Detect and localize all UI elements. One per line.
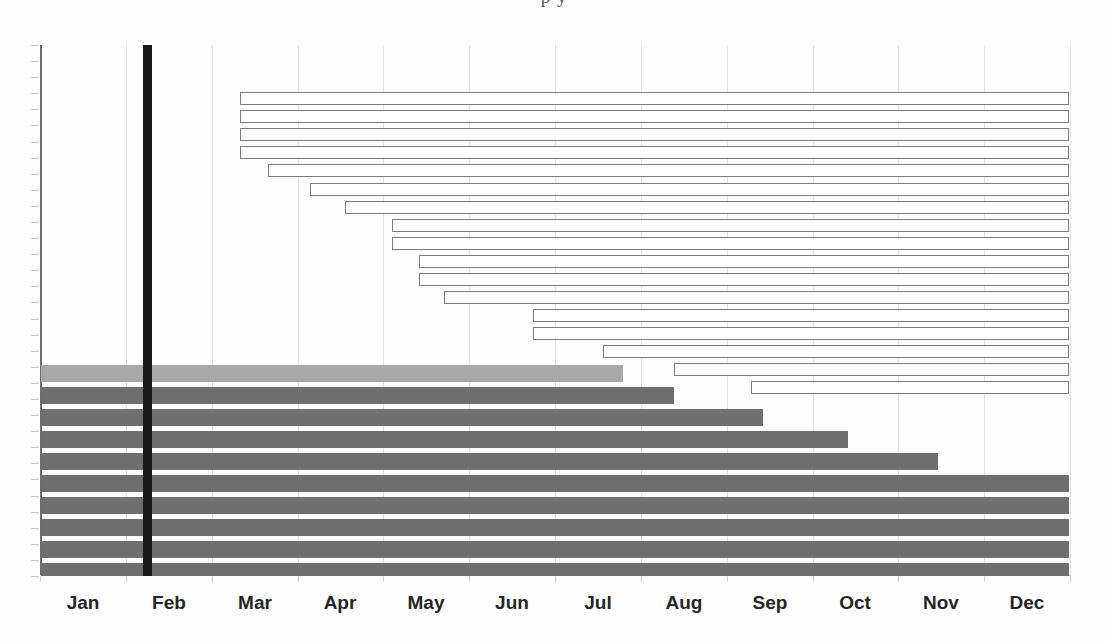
actual-bar[interactable] (41, 497, 1069, 514)
y-tick-1 (31, 61, 39, 62)
actual-bar[interactable] (41, 453, 938, 470)
planned-bar[interactable] (240, 110, 1069, 123)
x-tick-6 (555, 576, 556, 582)
y-tick-30 (31, 528, 39, 529)
x-axis-month-labels: JanFebMarAprMayJunJulAugSepOctNovDec (0, 592, 1108, 626)
y-tick-7 (31, 158, 39, 159)
planned-bar[interactable] (419, 255, 1069, 268)
x-tick-9 (813, 576, 814, 582)
month-label-jul: Jul (584, 592, 611, 614)
x-tick-1 (126, 576, 127, 582)
actual-bar[interactable] (41, 563, 1069, 576)
x-tick-5 (469, 576, 470, 582)
month-label-mar: Mar (238, 592, 272, 614)
y-tick-10 (31, 206, 39, 207)
y-tick-3 (31, 93, 39, 94)
y-tick-18 (31, 335, 39, 336)
planned-bar[interactable] (419, 273, 1069, 286)
y-tick-33 (31, 576, 39, 577)
month-label-nov: Nov (923, 592, 959, 614)
x-tick-4 (383, 576, 384, 582)
y-tick-19 (31, 351, 39, 352)
y-tick-12 (31, 238, 39, 239)
planned-bar[interactable] (240, 92, 1069, 105)
y-tick-13 (31, 254, 39, 255)
y-tick-4 (31, 109, 39, 110)
x-tick-7 (641, 576, 642, 582)
y-tick-11 (31, 222, 39, 223)
status-date-marker[interactable] (143, 45, 152, 576)
planned-bar[interactable] (268, 164, 1069, 177)
y-tick-0 (31, 45, 39, 46)
y-tick-20 (31, 367, 39, 368)
actual-bar[interactable] (41, 519, 1069, 536)
month-label-oct: Oct (839, 592, 871, 614)
month-label-feb: Feb (152, 592, 186, 614)
y-tick-9 (31, 190, 39, 191)
y-tick-21 (31, 383, 39, 384)
y-tick-25 (31, 447, 39, 448)
actual-bar[interactable] (41, 431, 848, 448)
actual-bar[interactable] (41, 475, 1069, 492)
planned-bar[interactable] (444, 291, 1069, 304)
x-tick-12 (1070, 576, 1071, 582)
planned-bar[interactable] (345, 201, 1069, 214)
planned-bar[interactable] (751, 381, 1069, 394)
y-tick-23 (31, 415, 39, 416)
actual-bar[interactable] (41, 365, 623, 382)
planned-bar[interactable] (603, 345, 1069, 358)
month-label-may: May (408, 592, 445, 614)
y-tick-17 (31, 319, 39, 320)
planned-bar[interactable] (310, 183, 1069, 196)
y-tick-29 (31, 512, 39, 513)
month-label-aug: Aug (666, 592, 703, 614)
x-tick-2 (212, 576, 213, 582)
x-tick-8 (727, 576, 728, 582)
y-tick-22 (31, 399, 39, 400)
y-tick-2 (31, 77, 39, 78)
y-tick-5 (31, 125, 39, 126)
gantt-chart-page: p y JanFebMarAprMayJunJulAugSepOctNovDec (0, 0, 1108, 642)
y-tick-15 (31, 286, 39, 287)
month-label-jun: Jun (495, 592, 529, 614)
planned-bar[interactable] (674, 363, 1069, 376)
x-tick-3 (298, 576, 299, 582)
y-tick-27 (31, 479, 39, 480)
y-tick-32 (31, 560, 39, 561)
y-tick-31 (31, 544, 39, 545)
y-tick-26 (31, 463, 39, 464)
clipped-text-fragment: p y (0, 0, 1108, 8)
planned-bar[interactable] (392, 237, 1069, 250)
planned-bar[interactable] (533, 309, 1069, 322)
y-tick-28 (31, 496, 39, 497)
y-tick-8 (31, 174, 39, 175)
month-label-jan: Jan (67, 592, 100, 614)
actual-bar[interactable] (41, 541, 1069, 558)
x-tick-0 (40, 576, 41, 582)
y-tick-6 (31, 142, 39, 143)
planned-bar[interactable] (392, 219, 1069, 232)
planned-bar[interactable] (240, 128, 1069, 141)
planned-bar[interactable] (533, 327, 1069, 340)
y-tick-16 (31, 302, 39, 303)
month-label-apr: Apr (324, 592, 357, 614)
y-tick-14 (31, 270, 39, 271)
month-label-dec: Dec (1010, 592, 1045, 614)
x-tick-10 (898, 576, 899, 582)
actual-bar[interactable] (41, 387, 674, 404)
x-tick-11 (984, 576, 985, 582)
planned-bar[interactable] (240, 146, 1069, 159)
y-tick-24 (31, 431, 39, 432)
month-label-sep: Sep (753, 592, 788, 614)
gridline-month-12 (1070, 45, 1071, 576)
